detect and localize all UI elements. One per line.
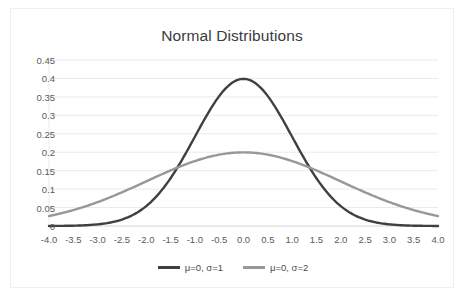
x-axis-tick-labels: -4.0-3.5-3.0-2.5-2.0-1.5-1.0-0.50.00.51.… [11,9,455,289]
x-tick-label: 0.0 [237,234,250,245]
legend-color-swatch [158,266,180,269]
x-tick-label: -3.5 [65,234,81,245]
x-tick-label: 2.5 [358,234,371,245]
x-tick-label: 2.0 [334,234,347,245]
x-tick-label: -2.0 [138,234,154,245]
x-tick-label: 1.5 [310,234,323,245]
x-tick-label: -2.5 [114,234,130,245]
x-tick-label: -3.0 [89,234,105,245]
legend-item[interactable]: μ=0, σ=2 [243,262,308,273]
plot-area: 00.050.10.150.20.250.30.350.40.45 -4.0-3… [11,9,455,289]
x-tick-label: 0.5 [261,234,274,245]
legend-color-swatch [243,266,265,269]
x-tick-label: -4.0 [41,234,57,245]
x-tick-label: -1.5 [162,234,178,245]
legend-item[interactable]: μ=0, σ=1 [158,262,223,273]
x-tick-label: -0.5 [211,234,227,245]
x-tick-label: 4.0 [431,234,444,245]
x-tick-label: 3.5 [407,234,420,245]
x-tick-label: -1.0 [187,234,203,245]
x-tick-label: 1.0 [286,234,299,245]
legend-item-label: μ=0, σ=2 [270,262,308,273]
x-tick-label: 3.0 [383,234,396,245]
chart-card: Normal Distributions 00.050.10.150.20.25… [10,8,454,288]
legend-item-label: μ=0, σ=1 [185,262,223,273]
chart-legend: μ=0, σ=1μ=0, σ=2 [11,262,455,273]
